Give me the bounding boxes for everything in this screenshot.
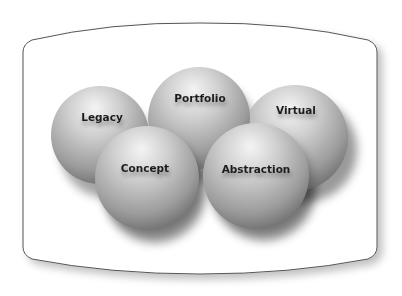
diagram-canvas: Legacy Virtual Portfolio Concept Abstrac… (0, 0, 402, 296)
sphere-label-legacy: Legacy (81, 111, 123, 123)
sphere-label-abstraction: Abstraction (222, 163, 291, 175)
sphere-label-virtual: Virtual (276, 104, 316, 116)
sphere-abstraction: Abstraction (203, 123, 309, 229)
sphere-label-concept: Concept (121, 162, 169, 174)
sphere-label-portfolio: Portfolio (174, 92, 225, 104)
spheres-diagram: Legacy Virtual Portfolio Concept Abstrac… (0, 0, 402, 296)
sphere-concept: Concept (95, 126, 199, 230)
